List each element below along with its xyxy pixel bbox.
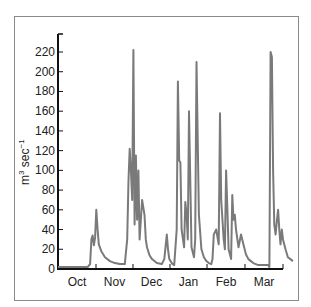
y-tick-label: 60: [42, 203, 56, 217]
discharge-line-chart: 020406080100120140160180200220 OctNovDec…: [0, 0, 311, 307]
discharge-series-line: [58, 50, 293, 267]
x-tick-label-mar: Mar: [254, 275, 275, 289]
y-tick-label: 140: [35, 124, 55, 138]
y-tick-label: 80: [42, 183, 56, 197]
x-tick-label-nov: Nov: [104, 275, 125, 289]
y-tick-label: 100: [35, 163, 55, 177]
y-tick-label: 200: [35, 65, 55, 79]
y-tick-label: 220: [35, 45, 55, 59]
x-axis: OctNovDecJanFebMar: [57, 264, 283, 289]
y-tick-label: 40: [42, 223, 56, 237]
y-tick-label: 20: [42, 242, 56, 256]
x-tick-label-feb: Feb: [216, 275, 237, 289]
y-tick-label: 0: [48, 262, 55, 276]
x-tick-label-dec: Dec: [141, 275, 162, 289]
y-tick-label: 120: [35, 144, 55, 158]
x-tick-label-jan: Jan: [179, 275, 198, 289]
y-axis-title: m3 sec−1: [17, 139, 32, 185]
x-tick-label-oct: Oct: [68, 275, 87, 289]
y-axis: 020406080100120140160180200220: [35, 34, 63, 276]
y-tick-label: 160: [35, 104, 55, 118]
y-tick-label: 180: [35, 84, 55, 98]
